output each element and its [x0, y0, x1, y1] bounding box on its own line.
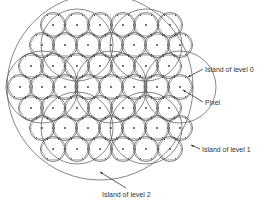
vertex-dot: [151, 118, 152, 119]
vertex-dot: [185, 54, 186, 55]
pixel-dot: [133, 86, 135, 88]
vertex-dot: [94, 56, 95, 57]
vertex-dot: [139, 118, 140, 119]
pixel-dot: [76, 107, 78, 109]
vertex-dot: [88, 107, 89, 108]
pixel-dot: [19, 86, 21, 88]
vertex-dot: [134, 107, 135, 108]
vertex-dot: [174, 98, 175, 99]
vertex-dot: [164, 139, 165, 140]
vertex-dot: [122, 127, 123, 128]
pixel-dot: [64, 86, 66, 88]
vertex-dot: [128, 35, 129, 36]
vertex-dot: [53, 44, 54, 45]
vertex-dot: [71, 158, 72, 159]
vertex-dot: [94, 139, 95, 140]
vertex-dot: [157, 107, 158, 108]
vertex-dot: [105, 77, 106, 78]
vertex-dot: [47, 15, 48, 16]
vertex-dot: [151, 139, 152, 140]
pixel-dot: [145, 65, 147, 67]
vertex-dot: [70, 118, 71, 119]
pixel-dot: [156, 127, 158, 129]
vertex-dot: [14, 96, 15, 97]
vertex-dot: [117, 56, 118, 57]
vertex-dot: [8, 86, 9, 87]
vertex-dot: [134, 148, 135, 149]
pixel-dot: [122, 107, 124, 109]
label-island-level-0: Island of level 0: [205, 66, 254, 73]
vertex-dot: [82, 118, 83, 119]
vertex-dot: [117, 15, 118, 16]
pixel-dot: [41, 44, 43, 46]
vertex-dot: [145, 86, 146, 87]
vertex-dot: [117, 98, 118, 99]
pixel-dot: [179, 127, 181, 129]
vertex-dot: [70, 35, 71, 36]
vertex-dot: [105, 158, 106, 159]
vertex-dot: [36, 35, 37, 36]
pixel-dot: [179, 44, 181, 46]
vertex-dot: [105, 56, 106, 57]
vertex-dot: [99, 127, 100, 128]
vertex-dot: [180, 24, 181, 25]
vertex-dot: [76, 44, 77, 45]
vertex-dot: [185, 118, 186, 119]
vertex-dot: [19, 107, 20, 108]
vertex-dot: [175, 15, 176, 16]
vertex-dot: [174, 118, 175, 119]
vertex-dot: [140, 158, 141, 159]
vertex-dot: [93, 35, 94, 36]
vertex-dot: [151, 15, 152, 16]
vertex-dot: [116, 77, 117, 78]
vertex-dot: [111, 65, 112, 66]
vertex-dot: [30, 127, 31, 128]
vertex-dot: [94, 98, 95, 99]
label-island-level-2: Island of level 2: [102, 191, 151, 198]
vertex-dot: [36, 118, 37, 119]
vertex-dot: [30, 86, 31, 87]
vertex-dot: [111, 24, 112, 25]
vertex-dot: [175, 158, 176, 159]
pixel-dot: [52, 107, 54, 109]
vertex-dot: [179, 65, 180, 66]
vertex-dot: [25, 56, 26, 57]
vertex-dot: [151, 98, 152, 99]
vertex-dot: [157, 65, 158, 66]
vertex-dot: [185, 137, 186, 138]
vertex-dot: [175, 139, 176, 140]
vertex-dot: [140, 56, 141, 57]
pixel-dot: [133, 44, 135, 46]
vertex-dot: [47, 98, 48, 99]
vertex-dot: [36, 77, 37, 78]
pixel-dot: [145, 148, 147, 150]
vertex-dot: [36, 98, 37, 99]
vertex-dot: [82, 98, 83, 99]
pixel-dot: [145, 24, 147, 26]
vertex-dot: [128, 98, 129, 99]
pixel-dot: [179, 86, 181, 88]
vertex-dot: [151, 158, 152, 159]
vertex-dot: [185, 96, 186, 97]
pixel-dot: [87, 127, 89, 129]
vertex-dot: [71, 56, 72, 57]
vertex-dot: [82, 56, 83, 57]
pixel-dot: [156, 86, 158, 88]
vertex-dot: [30, 44, 31, 45]
vertex-dot: [47, 77, 48, 78]
pixel-dot: [76, 24, 78, 26]
vertex-dot: [134, 24, 135, 25]
vertex-dot: [65, 148, 66, 149]
vertex-dot: [116, 35, 117, 36]
vertex-dot: [174, 35, 175, 36]
vertex-dot: [70, 77, 71, 78]
vertex-dot: [58, 139, 59, 140]
vertex-dot: [71, 98, 72, 99]
pixel-dot: [30, 65, 32, 67]
vertex-dot: [88, 148, 89, 149]
vertex-dot: [174, 77, 175, 78]
vertex-dot: [168, 86, 169, 87]
vertex-dot: [25, 117, 26, 118]
hexagonal-island-hierarchy: [0, 0, 261, 205]
vertex-dot: [76, 127, 77, 128]
